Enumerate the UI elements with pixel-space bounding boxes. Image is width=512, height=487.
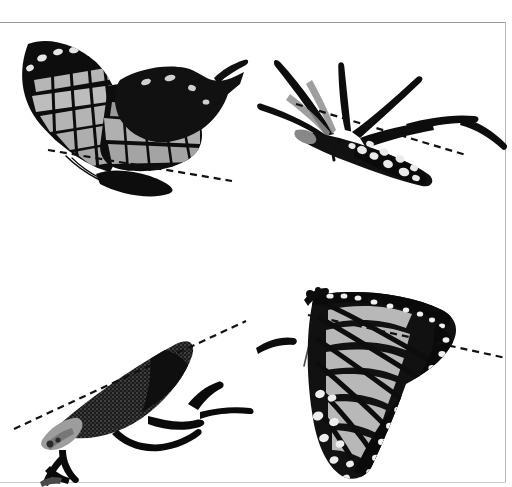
monarch-wing bbox=[308, 287, 459, 484]
leg-tips bbox=[40, 477, 62, 487]
panel-top-right: butterfly with wings folded back, long l… bbox=[256, 22, 512, 244]
hindwing-tail-lobe bbox=[96, 170, 173, 196]
detached-appendage bbox=[256, 337, 297, 354]
panel-top-left-artwork bbox=[0, 22, 256, 244]
panel-top-right-artwork bbox=[256, 22, 512, 244]
butterfly-posture-figure: Butterfly resting postures with body-axi… bbox=[0, 0, 512, 487]
upper-appendages bbox=[352, 76, 507, 150]
panel-bottom-left: butterfly body and speckled wing base an… bbox=[0, 244, 256, 482]
figure-title: Butterfly resting postures with body-axi… bbox=[0, 0, 1, 1]
panel-top-left: swallowtail butterfly, lateral view, win… bbox=[0, 22, 256, 244]
head-thorax-pale bbox=[41, 418, 82, 450]
panel-bottom-right-artwork bbox=[256, 244, 512, 482]
panel-bottom-right: monarch butterfly hanging, forewing and … bbox=[256, 244, 512, 482]
body-and-head bbox=[115, 59, 248, 142]
panel-bottom-left-artwork bbox=[0, 244, 256, 482]
